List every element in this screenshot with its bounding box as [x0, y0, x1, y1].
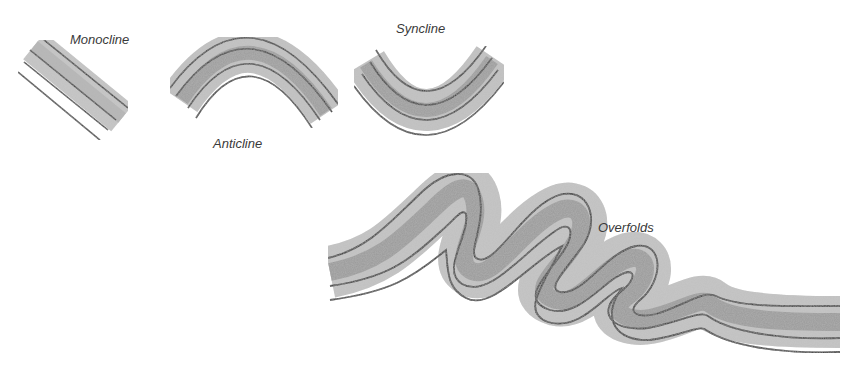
overfold-illustration — [328, 174, 840, 352]
monocline-illustration — [18, 40, 128, 140]
syncline-illustration — [354, 46, 504, 135]
anticline-label: Anticline — [213, 136, 262, 151]
overfolds-label: Overfolds — [598, 220, 654, 235]
fold-diagram: Monocline Anticline Syncline Overfolds — [0, 0, 858, 388]
anticline-illustration — [170, 38, 338, 128]
syncline-label: Syncline — [396, 21, 445, 36]
monocline-label: Monocline — [70, 32, 129, 47]
